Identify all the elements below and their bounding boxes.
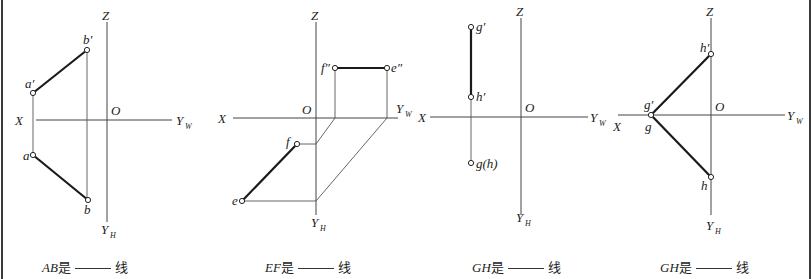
transfer-line-f (316, 118, 335, 144)
caption-suffix: 线 (548, 260, 561, 275)
label-e: e (232, 193, 238, 208)
yh-label: Y (516, 210, 525, 225)
caption-is: 是 (281, 260, 294, 275)
answer-blank[interactable] (298, 268, 334, 269)
answer-blank[interactable] (508, 268, 544, 269)
segment-g-h (651, 115, 711, 177)
point-g-prime (468, 24, 473, 29)
caption-ef: EF是线 (265, 257, 351, 276)
z-label: Z (102, 8, 110, 23)
z-label: Z (516, 4, 524, 19)
origin-label: O (525, 100, 535, 115)
caption-is: 是 (58, 260, 71, 275)
point-e (239, 198, 244, 203)
segment-f-e-top (242, 144, 297, 201)
label-f-dprime: f″ (321, 60, 331, 75)
caption-suffix: 线 (115, 260, 128, 275)
segment-name: EF (265, 260, 281, 275)
point-g-h (468, 160, 473, 165)
label-h-prime: h′ (700, 40, 710, 55)
diagram-gh-angled: Z O X Y W Y H h′ g′ g h (612, 4, 804, 236)
segment-a-b (33, 155, 88, 200)
origin-label: O (715, 99, 725, 114)
yw-subscript: W (405, 110, 413, 119)
diagram-ef: Z O X Y W Y H f″ e″ f e (217, 8, 413, 233)
yh-subscript: H (319, 224, 327, 233)
transfer-line-e (316, 118, 387, 201)
label-b: b (84, 202, 91, 217)
x-label: X (217, 111, 227, 126)
label-g-h: g(h) (476, 156, 498, 171)
point-h-prime (468, 94, 473, 99)
yw-subscript: W (185, 122, 193, 131)
caption-suffix: 线 (338, 260, 351, 275)
yw-label: Y (787, 108, 796, 123)
yh-label: Y (706, 218, 715, 233)
caption-gh-angled: GH是线 (660, 257, 749, 276)
label-g-prime: g′ (644, 97, 654, 112)
yw-label: Y (590, 110, 599, 125)
label-a: a (23, 148, 30, 163)
point-f-dprime (332, 65, 337, 70)
label-g-prime: g′ (476, 19, 486, 34)
yw-label: Y (396, 101, 405, 116)
caption-gh-vertical: GH是线 (472, 257, 561, 276)
yh-label: Y (101, 222, 110, 237)
caption-is: 是 (679, 260, 692, 275)
x-label: X (14, 113, 24, 128)
yh-subscript: H (524, 219, 532, 228)
point-b-prime (84, 47, 89, 52)
projection-diagrams: Z O X Y W Y H a′ b′ a b Z O X Y W Y H (0, 0, 812, 279)
label-g: g (645, 119, 652, 134)
yh-label: Y (311, 215, 320, 230)
yh-subscript: H (109, 231, 117, 240)
diagram-ab: Z O X Y W Y H a′ b′ a b (14, 8, 193, 240)
diagram-gh-vertical: Z O X Y W Y H g′ h′ g(h) (417, 4, 607, 228)
z-label: Z (311, 8, 319, 23)
x-label: X (417, 110, 427, 125)
yw-subscript: W (599, 119, 607, 128)
answer-blank[interactable] (696, 268, 732, 269)
x-label: X (612, 119, 622, 134)
point-a-prime (30, 90, 35, 95)
label-f: f (286, 134, 292, 149)
point-g (648, 112, 653, 117)
caption-ab: AB是线 (42, 257, 128, 276)
label-a-prime: a′ (25, 76, 35, 91)
origin-label: O (111, 103, 121, 118)
point-f (294, 141, 299, 146)
point-h (708, 174, 713, 179)
z-label: Z (706, 4, 714, 19)
caption-suffix: 线 (736, 260, 749, 275)
point-e-dprime (384, 65, 389, 70)
yw-label: Y (176, 113, 185, 128)
yw-subscript: W (796, 117, 804, 126)
segment-name: GH (472, 260, 491, 275)
label-b-prime: b′ (83, 32, 93, 47)
label-h: h (701, 178, 708, 193)
point-a (30, 152, 35, 157)
caption-is: 是 (491, 260, 504, 275)
segment-g-prime-h-prime (651, 54, 711, 115)
label-h-prime: h′ (476, 89, 486, 104)
segment-name: GH (660, 260, 679, 275)
origin-label: O (302, 102, 312, 117)
yh-subscript: H (714, 227, 722, 236)
label-e-dprime: e″ (391, 60, 403, 75)
segment-a-prime-b-prime (33, 50, 87, 93)
answer-blank[interactable] (75, 268, 111, 269)
segment-name: AB (42, 260, 58, 275)
